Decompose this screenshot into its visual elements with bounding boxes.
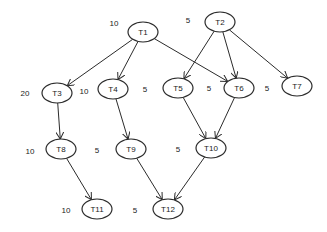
weight-label-t2: 5 [186,16,191,25]
weight-label-t6: 5 [207,84,212,93]
node-label: T10 [204,144,218,153]
weight-label-t12: 5 [133,206,138,215]
edge-t4-to-t9 [116,99,128,139]
edge-t2-to-t5 [184,31,214,79]
node-t7: T7 [282,76,312,96]
edge-t1-to-t6 [154,39,227,82]
node-t3: T3 [42,83,72,103]
weights-layer: 10520105551055105 [21,16,270,215]
node-label: T4 [108,85,118,94]
edge-t10-to-t12 [174,157,204,200]
node-label: T9 [126,145,136,154]
node-t8: T8 [46,139,76,159]
nodes-layer: T1T2T3T4T5T6T7T8T9T10T11T12 [42,12,312,219]
node-label: T2 [215,18,225,27]
weight-label-t7: 5 [265,84,270,93]
node-label: T6 [234,84,244,93]
edge-t1-to-t3 [67,39,132,85]
task-graph-diagram: T1T2T3T4T5T6T7T8T9T10T11T12 105201055510… [0,0,327,232]
weight-label-t5: 5 [143,85,148,94]
node-label: T11 [90,205,104,214]
node-t11: T11 [82,199,112,219]
node-label: T7 [292,82,302,91]
node-label: T3 [52,89,62,98]
weight-label-t4: 10 [80,87,89,96]
weight-label-t8: 10 [26,147,35,156]
node-label: T8 [56,145,66,154]
node-t4: T4 [98,79,128,99]
node-label: T5 [173,84,183,93]
weight-label-t1: 10 [110,19,119,28]
node-t12: T12 [153,199,183,219]
node-label: T12 [161,205,175,214]
edge-t6-to-t10 [215,98,234,139]
edge-t9-to-t12 [137,158,163,200]
node-t10: T10 [196,138,226,158]
node-t1: T1 [128,22,158,42]
node-label: T1 [138,28,148,37]
weight-label-t10: 5 [176,145,181,154]
weight-label-t11: 10 [62,206,71,215]
node-t5: T5 [163,78,193,98]
edge-t8-to-t11 [67,158,92,199]
weight-label-t3: 20 [21,89,30,98]
node-t2: T2 [205,12,235,32]
node-t6: T6 [224,78,254,98]
weight-label-t9: 5 [95,146,100,155]
node-t9: T9 [116,139,146,159]
edge-t2-to-t7 [229,30,287,78]
edges-layer [58,30,288,200]
edge-t5-to-t10 [183,97,206,138]
edge-t3-to-t8 [58,103,61,139]
edge-t2-to-t6 [223,32,236,78]
